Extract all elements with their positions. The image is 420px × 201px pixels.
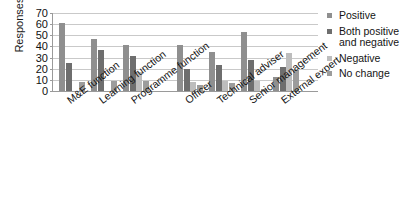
legend-swatch-icon — [327, 71, 332, 76]
bar-chart: Responses (%) 706050403020100 M&E functi… — [0, 0, 420, 201]
legend-swatch-icon — [327, 29, 332, 34]
legend-item[interactable]: No change — [327, 68, 419, 80]
legend-label: Positive — [339, 10, 419, 22]
legend-label: No change — [339, 68, 419, 80]
legend-item[interactable]: Positive — [327, 10, 419, 22]
chart-legend: PositiveBoth positive and negativeNegati… — [327, 10, 419, 84]
x-axis-label: Officer — [183, 79, 214, 106]
legend-swatch-icon — [327, 56, 332, 61]
legend-label: Negative — [339, 53, 419, 65]
legend-swatch-icon — [327, 13, 332, 18]
legend-item[interactable]: Both positive and negative — [327, 26, 419, 49]
legend-item[interactable]: Negative — [327, 53, 419, 65]
legend-label: Both positive and negative — [339, 26, 419, 49]
